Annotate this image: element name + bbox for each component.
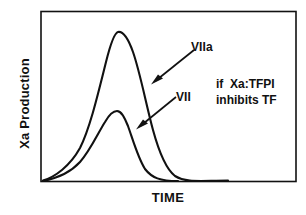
curve-label-vii: VII: [176, 90, 191, 104]
note-line-2: inhibits TF: [216, 92, 277, 108]
x-axis-label: TIME: [128, 190, 208, 205]
curve-viia: [43, 32, 228, 181]
figure-container: Xa Production TIME VIIa VII if Xa:TFPI i…: [0, 0, 306, 215]
curve-label-viia: VIIa: [191, 40, 213, 54]
arrow-viia: [151, 50, 194, 85]
note-block: if Xa:TFPI inhibits TF: [216, 76, 277, 108]
arrow-vii: [136, 97, 176, 130]
note-line-1: if Xa:TFPI: [216, 76, 277, 92]
y-axis-label: Xa Production: [17, 34, 32, 174]
